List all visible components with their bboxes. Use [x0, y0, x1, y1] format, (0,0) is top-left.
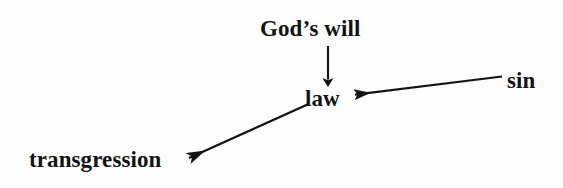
diagram-canvas: God’s will law sin transgression	[0, 0, 563, 188]
arrow-sin-to-law	[355, 77, 502, 95]
arrow-law-to-transgression	[189, 105, 308, 159]
node-label-sin: sin	[507, 69, 535, 92]
node-label-gods-will: God’s will	[260, 17, 360, 40]
node-label-law: law	[305, 87, 340, 110]
node-label-transgression: transgression	[29, 148, 162, 171]
